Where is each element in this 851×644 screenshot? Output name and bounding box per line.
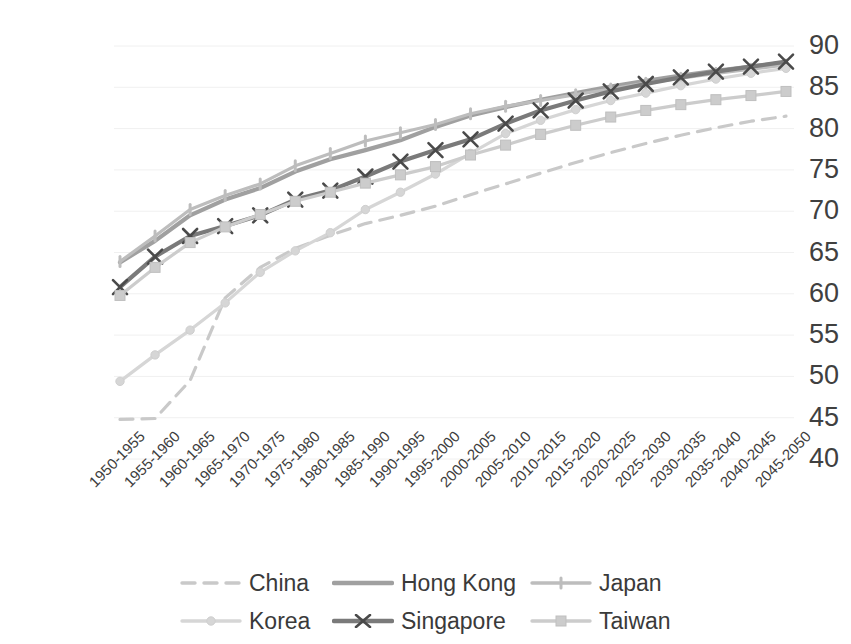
legend-swatch-icon: [332, 614, 394, 628]
legend-row: KoreaSingaporeTaiwan: [180, 604, 700, 638]
legend-swatch-icon: [180, 614, 242, 628]
legend-label: Japan: [599, 572, 662, 595]
legend-item-hong-kong[interactable]: Hong Kong: [332, 566, 516, 600]
legend-label: Korea: [249, 610, 310, 633]
legend-swatch-icon: [332, 576, 394, 590]
legend-swatch-icon: [530, 576, 592, 590]
legend-label: Singapore: [401, 610, 506, 633]
x-axis-labels: 1950-19551955-19601960-19651965-19701970…: [0, 0, 851, 644]
legend-item-japan[interactable]: Japan: [530, 566, 662, 600]
legend-label: China: [249, 572, 309, 595]
line-chart: 9085807570656055504540 1950-19551955-196…: [0, 0, 851, 644]
legend-item-singapore[interactable]: Singapore: [332, 604, 506, 638]
legend-item-korea[interactable]: Korea: [180, 604, 310, 638]
chart-legend: ChinaHong KongJapanKoreaSingaporeTaiwan: [180, 566, 700, 638]
legend-swatch-icon: [530, 614, 592, 628]
legend-label: Taiwan: [599, 610, 671, 633]
legend-item-china[interactable]: China: [180, 566, 309, 600]
legend-swatch-icon: [180, 576, 242, 590]
legend-row: ChinaHong KongJapan: [180, 566, 700, 600]
legend-item-taiwan[interactable]: Taiwan: [530, 604, 671, 638]
legend-label: Hong Kong: [401, 572, 516, 595]
